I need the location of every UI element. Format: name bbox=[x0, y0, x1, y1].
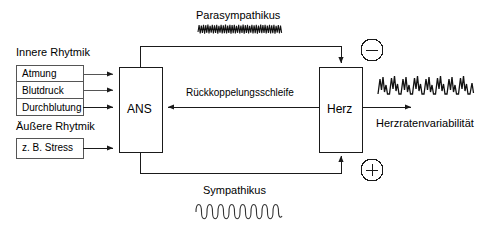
parasympathetic-waveform bbox=[198, 25, 282, 34]
parasympathetic-branch-label: Parasympathikus bbox=[196, 10, 280, 21]
sympathetic-waveform bbox=[196, 205, 282, 219]
inner-rhythm-item-atmung: Atmung bbox=[22, 69, 56, 79]
ans-node-label: ANS bbox=[127, 103, 152, 115]
hrv-waveform bbox=[378, 76, 474, 94]
sympathetic-path bbox=[140, 152, 341, 173]
inner-rhythm-item-durchblutung: Durchblutung bbox=[22, 103, 81, 113]
feedback-loop-label: Rückkoppelungsschleife bbox=[186, 88, 294, 98]
parasympathetic-path bbox=[140, 46, 341, 67]
ans-heart-feedback-diagram: Innere Rhytmik Atmung Blutdruck Durchblu… bbox=[0, 0, 484, 232]
diagram-canvas bbox=[0, 0, 484, 232]
heart-node-label: Herz bbox=[327, 103, 352, 115]
output-label-herzratenvariabilitaet: Herzratenvariabilität bbox=[376, 118, 474, 129]
sympathetic-branch-label: Sympathikus bbox=[203, 185, 266, 196]
inner-rhythm-group-label: Innere Rhytmik bbox=[16, 47, 90, 58]
outer-rhythm-item-stress: z. B. Stress bbox=[22, 143, 73, 153]
inner-rhythm-item-blutdruck: Blutdruck bbox=[22, 86, 64, 96]
outer-rhythm-group-label: Äußere Rhytmik bbox=[16, 121, 95, 132]
